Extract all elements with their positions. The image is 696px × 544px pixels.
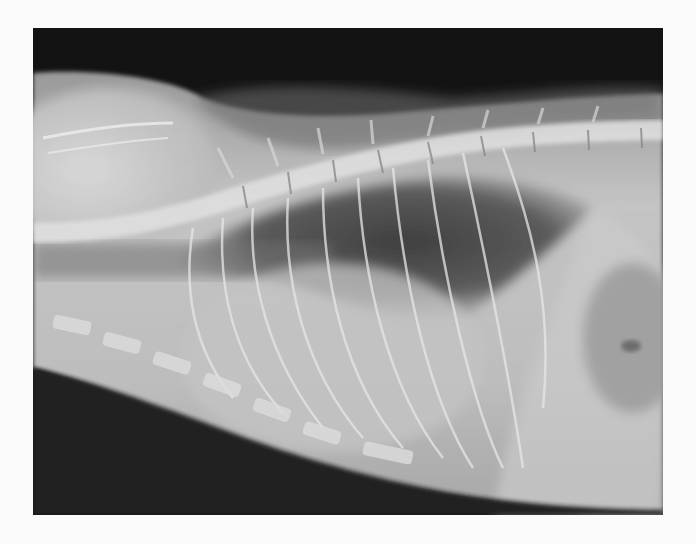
radiograph-image <box>33 28 663 515</box>
radiograph-drawing <box>33 28 663 515</box>
